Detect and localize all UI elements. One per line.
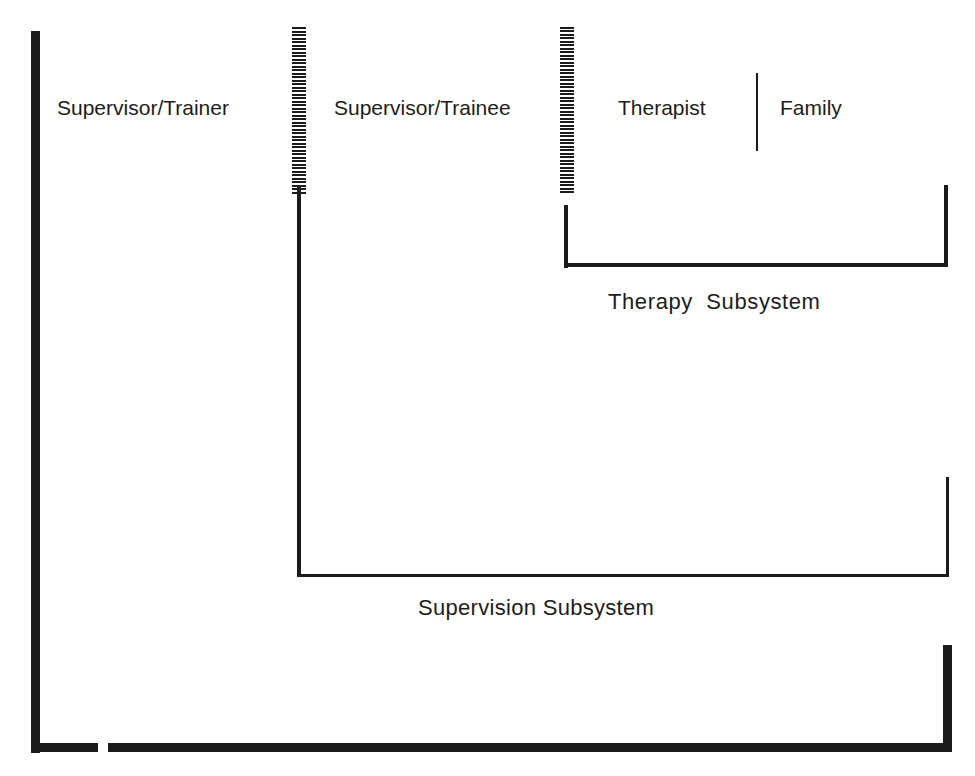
outer-bracket-bottom-left xyxy=(31,743,98,752)
label-supervision-subsystem: Supervision Subsystem xyxy=(418,596,654,620)
label-therapist: Therapist xyxy=(618,96,706,120)
trainee-therapy-boundary xyxy=(560,27,574,193)
therapy-bracket-left-leg xyxy=(564,205,568,268)
label-family: Family xyxy=(780,96,842,120)
supervision-bracket-bottom xyxy=(297,574,949,577)
therapy-bracket-right-leg xyxy=(944,185,948,267)
therapist-family-divider xyxy=(756,73,758,151)
label-therapy-subsystem: Therapy Subsystem xyxy=(608,290,821,314)
outer-bracket-bottom-right xyxy=(108,743,952,752)
supervision-bracket-left-leg xyxy=(297,185,301,577)
outer-bracket-right-leg xyxy=(943,645,952,752)
label-supervisor-trainer: Supervisor/Trainer xyxy=(57,96,229,120)
trainer-trainee-boundary xyxy=(292,27,306,194)
therapy-bracket-bottom xyxy=(564,263,948,267)
supervision-bracket-cross-tick xyxy=(293,188,305,190)
supervision-bracket-right-leg xyxy=(946,477,949,577)
outer-bracket-left-leg xyxy=(31,31,40,753)
label-supervisor-trainee: Supervisor/Trainee xyxy=(334,96,511,120)
